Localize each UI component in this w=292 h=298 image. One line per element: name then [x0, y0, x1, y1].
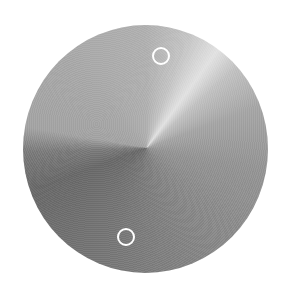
rotary-knob[interactable]: [23, 25, 268, 273]
knob-grain-texture: [23, 25, 268, 273]
stage: [0, 0, 292, 298]
top-ring-marker-icon[interactable]: [152, 47, 170, 65]
bottom-ring-marker-icon[interactable]: [117, 228, 135, 246]
